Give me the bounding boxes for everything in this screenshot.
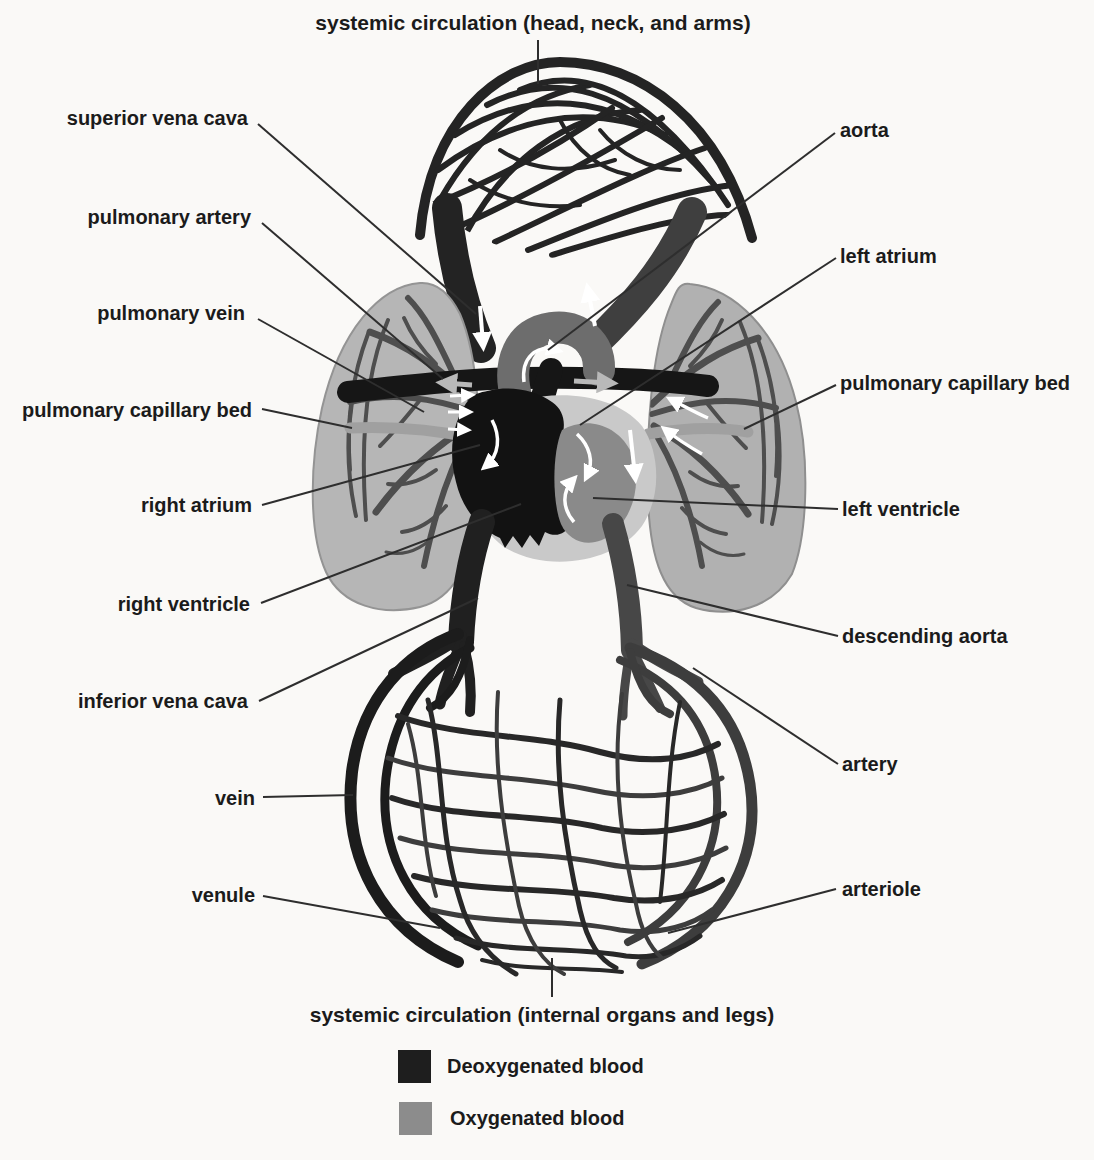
label-pulmonary-vein: pulmonary vein <box>97 301 245 326</box>
label-arteriole: arteriole <box>842 877 921 902</box>
flow-arrow-into-right-lung <box>574 381 610 383</box>
paper-background <box>0 0 1094 1160</box>
label-right-atrium: right atrium <box>141 493 252 518</box>
top-caption: systemic circulation (head, neck, and ar… <box>315 10 750 36</box>
legend-label-oxygenated: Oxygenated blood <box>450 1105 624 1131</box>
label-pulmonary-capillary-bed-left: pulmonary capillary bed <box>22 398 252 423</box>
label-superior-vena-cava: superior vena cava <box>67 106 248 131</box>
label-descending-aorta: descending aorta <box>842 624 1008 649</box>
circulatory-diagram <box>0 0 1094 1160</box>
circulatory-system-figure: systemic circulation (head, neck, and ar… <box>0 0 1094 1160</box>
label-pulmonary-capillary-bed-right: pulmonary capillary bed <box>840 371 1070 396</box>
label-vein: vein <box>215 786 255 811</box>
label-right-ventricle: right ventricle <box>118 592 250 617</box>
label-venule: venule <box>192 883 255 908</box>
pulmonary-vein-right <box>648 428 748 434</box>
label-artery: artery <box>842 752 898 777</box>
legend-swatch-oxygenated <box>399 1102 432 1135</box>
label-aorta: aorta <box>840 118 889 143</box>
label-inferior-vena-cava: inferior vena cava <box>78 689 248 714</box>
legend-swatch-deoxygenated <box>398 1050 431 1083</box>
flow-arrow-left-hilum-1 <box>450 395 470 396</box>
label-left-atrium: left atrium <box>840 244 937 269</box>
bottom-caption: systemic circulation (internal organs an… <box>310 1002 774 1028</box>
legend-label-deoxygenated: Deoxygenated blood <box>447 1053 644 1079</box>
flow-arrow-into-left-lung <box>444 383 472 385</box>
flow-arrow-left-hilum-3 <box>448 429 466 430</box>
label-pulmonary-artery: pulmonary artery <box>88 205 251 230</box>
label-left-ventricle: left ventricle <box>842 497 960 522</box>
